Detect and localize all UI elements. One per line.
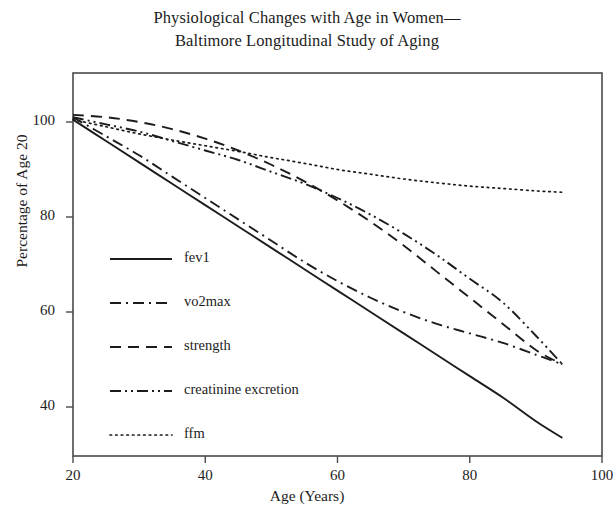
legend-label-fev1: fev1 [184,249,210,266]
plot-frame [73,73,602,456]
x-tick-label: 60 [308,467,368,484]
x-tick-label: 100 [572,467,614,484]
y-tick-label: 40 [3,397,55,414]
curve-creatinine-excretion [73,117,562,364]
curve-ffm [73,120,562,193]
y-tick-label: 100 [3,112,55,129]
y-tick-label: 60 [3,302,55,319]
legend-label-ffm: ffm [184,425,205,442]
curve-vo2max [73,117,562,364]
x-tick-label: 80 [440,467,500,484]
chart-figure: Physiological Changes with Age in Women—… [0,0,614,519]
legend-label-vo2max: vo2max [184,293,231,310]
y-tick-label: 80 [3,207,55,224]
legend-sample-lines [110,259,172,435]
legend-label-strength: strength [184,337,231,354]
y-axis-label: Percentage of Age 20 [13,101,31,301]
x-tick-label: 40 [175,467,235,484]
x-tick-label: 20 [43,467,103,484]
legend-label-creatinine-excretion: creatinine excretion [184,381,299,398]
plot-area [0,0,614,519]
data-curves [73,115,562,438]
x-axis-label: Age (Years) [0,487,614,505]
curve-strength [73,115,562,364]
